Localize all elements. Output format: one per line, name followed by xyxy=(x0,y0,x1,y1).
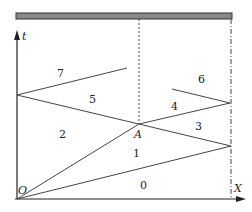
region-3-label: 3 xyxy=(195,120,202,133)
line-left-upper xyxy=(17,68,127,95)
region-5-label: 5 xyxy=(89,93,96,106)
x-axis-arrow-icon xyxy=(236,196,246,202)
point-a-label: A xyxy=(133,128,142,141)
t-axis-label: t xyxy=(22,30,27,43)
line-a-upper-right xyxy=(139,103,230,124)
region-6-label: 6 xyxy=(198,73,205,86)
origin-label: O xyxy=(18,184,27,197)
wave-diagram: t X O A 0 1 2 3 4 5 6 7 xyxy=(0,0,252,212)
top-bar xyxy=(16,13,232,19)
region-4-label: 4 xyxy=(171,100,178,113)
line-o-a xyxy=(17,124,139,199)
region-0-label: 0 xyxy=(140,179,147,192)
region-1-label: 1 xyxy=(133,147,140,160)
line-upper-right xyxy=(172,89,230,103)
region-2-label: 2 xyxy=(59,128,66,141)
x-axis-label: X xyxy=(233,182,243,195)
line-o-right xyxy=(17,146,231,199)
region-7-label: 7 xyxy=(57,67,64,80)
t-axis-arrow-icon xyxy=(14,30,20,40)
